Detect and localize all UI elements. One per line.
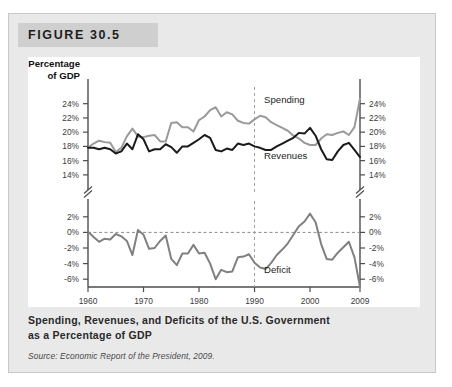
y-axis-label-left: -4% — [64, 259, 79, 269]
caption-line-1: Spending, Revenues, and Deficits of the … — [28, 313, 424, 328]
y-axis-label-right: 22% — [369, 113, 386, 123]
x-axis-label: 2009 — [351, 296, 370, 306]
y-axis-title-line1: Percentage — [28, 58, 80, 69]
x-axis-label: 2000 — [301, 296, 320, 306]
figure-number-label: FIGURE 30.5 — [28, 28, 121, 42]
source-note: Source: Economic Report of the President… — [28, 351, 424, 361]
figure-panel: FIGURE 30.5 24%24%22%22%20%20%18%18%16%1… — [8, 13, 436, 373]
caption-block: Spending, Revenues, and Deficits of the … — [28, 313, 424, 361]
series-label-revenues: Revenues — [264, 150, 307, 161]
y-axis-label-left: 2% — [67, 212, 80, 222]
y-axis-label-left: 22% — [62, 113, 79, 123]
axis-break-mark — [356, 191, 364, 198]
y-axis-label-right: 18% — [369, 141, 386, 151]
chart-card: 24%24%22%22%20%20%18%18%16%16%14%14%2%2%… — [28, 57, 420, 307]
x-axis-label: 1980 — [190, 296, 209, 306]
axis-break-mark — [84, 191, 92, 198]
y-axis-label-right: 0% — [369, 227, 382, 237]
y-axis-label-right: 2% — [369, 212, 382, 222]
y-axis-label-right: 16% — [369, 156, 386, 166]
y-axis-label-right: -4% — [369, 259, 384, 269]
y-axis-label-left: -6% — [64, 274, 79, 284]
y-axis-label-right: -6% — [369, 274, 384, 284]
series-label-deficit: Deficit — [264, 264, 291, 275]
y-axis-label-right: 14% — [369, 170, 386, 180]
x-axis-label: 1970 — [134, 296, 153, 306]
y-axis-label-right: 20% — [369, 127, 386, 137]
y-axis-label-left: -2% — [64, 243, 79, 253]
figure-header: FIGURE 30.5 — [18, 23, 158, 47]
y-axis-label-left: 0% — [67, 227, 80, 237]
spending-revenues-deficit-chart: 24%24%22%22%20%20%18%18%16%16%14%14%2%2%… — [28, 57, 420, 307]
y-axis-title-line2: of GDP — [47, 70, 80, 81]
y-axis-label-left: 18% — [62, 141, 79, 151]
series-line-deficit — [88, 214, 360, 287]
x-axis-label: 1960 — [79, 296, 98, 306]
y-axis-label-left: 20% — [62, 127, 79, 137]
y-axis-label-left: 24% — [62, 99, 79, 109]
y-axis-label-right: 24% — [369, 99, 386, 109]
y-axis-label-left: 14% — [62, 170, 79, 180]
series-label-spending: Spending — [264, 94, 305, 105]
caption-line-2: as a Percentage of GDP — [28, 328, 424, 343]
y-axis-label-left: 16% — [62, 156, 79, 166]
y-axis-label-right: -2% — [369, 243, 384, 253]
x-axis-label: 1990 — [245, 296, 264, 306]
